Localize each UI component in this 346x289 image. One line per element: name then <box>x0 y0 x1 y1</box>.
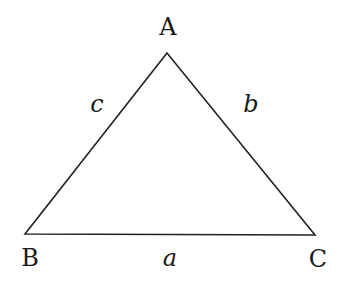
vertex-label-b: B <box>21 244 39 272</box>
side-label-a: a <box>163 244 177 272</box>
vertex-label-a: A <box>158 13 177 41</box>
vertex-label-c: C <box>309 245 327 273</box>
side-label-c: c <box>90 90 103 118</box>
triangle-diagram: A B C a b c <box>0 0 346 289</box>
triangle-abc <box>25 53 315 235</box>
side-label-b: b <box>243 90 258 118</box>
